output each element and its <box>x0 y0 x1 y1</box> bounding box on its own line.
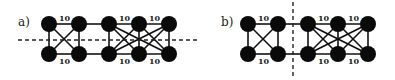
node <box>330 16 346 32</box>
node <box>71 46 87 62</box>
node <box>101 16 117 32</box>
edge-weight: 10 <box>149 13 161 23</box>
node <box>360 16 376 32</box>
edge-weight: 10 <box>348 13 360 23</box>
edge-weight: 10 <box>119 56 131 66</box>
edge-weight: 10 <box>318 56 330 66</box>
node <box>240 46 256 62</box>
node <box>270 16 286 32</box>
panel-b: b) 10 10 10 10 10 10 <box>221 2 376 78</box>
edge-weight: 10 <box>59 56 71 66</box>
panel-label-b: b) <box>221 15 233 29</box>
node <box>41 46 57 62</box>
graph-cut-diagram: a) 10 10 <box>0 0 395 80</box>
edge-weight: 10 <box>318 13 330 23</box>
node <box>330 46 346 62</box>
node <box>71 16 87 32</box>
node <box>131 46 147 62</box>
edge-weight: 10 <box>119 13 131 23</box>
node <box>270 46 286 62</box>
edge-weight: 10 <box>59 13 71 23</box>
node <box>161 46 177 62</box>
node <box>240 16 256 32</box>
node <box>161 16 177 32</box>
edge-weight: 10 <box>258 56 270 66</box>
edge-weight: 10 <box>348 56 360 66</box>
node <box>300 46 316 62</box>
panel-a: a) 10 10 <box>18 13 200 66</box>
panel-label-a: a) <box>18 15 30 29</box>
node <box>101 46 117 62</box>
node <box>131 16 147 32</box>
node <box>41 16 57 32</box>
edge-weight: 10 <box>258 13 270 23</box>
node <box>360 46 376 62</box>
edge-weight: 10 <box>149 56 161 66</box>
node <box>300 16 316 32</box>
